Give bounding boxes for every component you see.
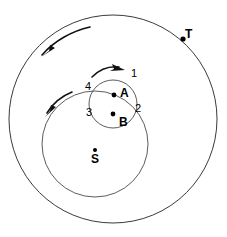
outer-counterclockwise-arrow [41,27,90,57]
label-B: B [119,116,128,128]
body-dot-B [111,112,116,117]
body-dot-A [112,93,117,98]
label-A: A [120,87,129,99]
middle-orbit-circle [42,91,148,197]
outer-arrow-head [41,45,55,57]
epicycle-point-3: 3 [86,107,92,118]
label-S: S [91,153,99,165]
orbit-diagram: T S A B 1 2 3 4 [0,0,227,237]
outer-orbit-circle [9,15,217,223]
epicycle-clockwise-arrow [92,64,125,77]
diagram-canvas [0,0,227,237]
middle-counterclockwise-arrow [45,92,72,117]
epicycle-point-1: 1 [131,68,137,79]
label-T: T [185,28,192,40]
epicycle-point-2: 2 [135,103,141,114]
epicycle-point-4: 4 [85,81,91,92]
